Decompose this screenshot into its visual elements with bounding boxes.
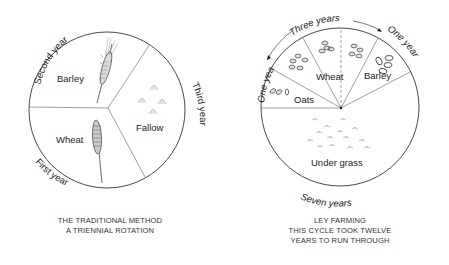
sector-label-wheat: Wheat [56,134,84,145]
center-point [340,107,342,109]
caption-ley-farming: LEY FARMING THIS CYCLE TOOK TWELVE YEARS… [270,216,410,246]
sector-label-under-grass: Under grass [311,157,363,168]
sector-label-wheat-ley: Wheat [316,71,344,82]
arc-label-seven-years: Seven years [299,191,352,209]
caption-traditional-method: THE TRADITIONAL METHOD A TRIENNIAL ROTAT… [30,216,190,236]
caption-line: THE TRADITIONAL METHOD [30,216,190,226]
sector-label-barley-ley: Barley [364,70,391,81]
triennial-rotation-diagram: Barley Fallow Wheat Second year Third ye… [29,32,209,188]
sector-label-fallow: Fallow [136,122,164,133]
caption-line: A TRIENNIAL ROTATION [30,226,190,236]
caption-line: THIS CYCLE TOOK TWELVE [270,226,410,236]
sector-label-barley: Barley [57,73,84,84]
caption-line: LEY FARMING [270,216,410,226]
arrowhead-right-icon [377,28,382,32]
year-label-third: Third year [190,80,209,126]
sector-label-oats: Oats [294,94,314,105]
caption-line: YEARS TO RUN THROUGH [270,236,410,246]
